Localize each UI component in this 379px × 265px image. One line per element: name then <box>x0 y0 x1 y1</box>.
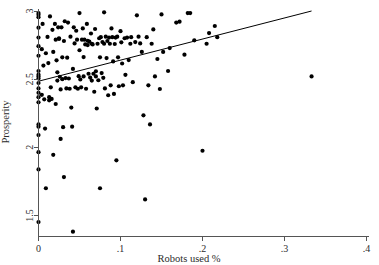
data-point <box>150 42 154 46</box>
data-point <box>118 29 122 33</box>
data-point <box>74 29 78 33</box>
data-point <box>50 28 54 32</box>
data-point <box>62 175 66 179</box>
data-point <box>90 78 94 82</box>
data-point <box>131 80 135 84</box>
data-point <box>161 50 165 54</box>
data-point <box>91 42 95 46</box>
data-point <box>82 74 86 78</box>
data-point <box>70 125 74 129</box>
data-point <box>66 20 70 24</box>
data-point <box>102 42 106 46</box>
y-tick-label: 2.5 <box>24 73 35 86</box>
data-point <box>49 85 53 89</box>
data-point <box>55 70 59 74</box>
data-point <box>93 27 97 31</box>
data-points-layer <box>36 10 313 233</box>
data-point <box>51 50 55 54</box>
data-point <box>153 74 157 78</box>
data-point <box>121 83 125 87</box>
data-point <box>41 22 45 26</box>
data-point <box>61 125 65 129</box>
data-point <box>77 48 81 52</box>
data-point <box>145 35 149 39</box>
data-point <box>143 197 147 201</box>
data-point <box>59 87 63 91</box>
data-point <box>59 137 63 141</box>
data-point <box>44 186 48 190</box>
data-point <box>102 10 106 14</box>
data-point <box>43 126 47 130</box>
y-axis-ticks: 1.522.53 <box>24 9 39 222</box>
data-point <box>109 26 113 30</box>
data-point <box>200 149 204 153</box>
x-tick-label: 0 <box>36 243 41 254</box>
data-point <box>213 24 217 28</box>
data-point <box>72 41 76 45</box>
data-point <box>155 57 159 61</box>
data-point <box>98 186 102 190</box>
data-point <box>101 76 105 80</box>
y-tick-label: 2 <box>24 145 35 150</box>
data-point <box>84 87 88 91</box>
data-point <box>119 40 123 44</box>
y-axis-title: Prosperity <box>0 100 11 144</box>
data-point <box>48 14 52 18</box>
data-point <box>54 58 58 62</box>
data-point <box>207 31 211 35</box>
data-point <box>81 26 85 30</box>
data-point <box>68 87 72 91</box>
x-tick-label: .4 <box>363 243 371 254</box>
data-point <box>151 27 155 31</box>
data-point <box>166 69 170 73</box>
data-point <box>112 92 116 96</box>
data-point <box>69 105 73 109</box>
data-point <box>95 106 99 110</box>
scatter-plot-figure: 1.522.53 0.1.2.3.4 Robots used % Prosper… <box>0 0 379 265</box>
data-point <box>138 41 142 45</box>
data-point <box>71 230 75 234</box>
data-point <box>86 72 90 76</box>
data-point <box>141 113 145 117</box>
data-point <box>129 35 133 39</box>
data-point <box>117 84 121 88</box>
data-point <box>65 56 69 60</box>
data-point <box>51 153 55 157</box>
data-point <box>108 42 112 46</box>
data-point <box>99 35 103 39</box>
data-point <box>159 12 163 16</box>
data-point <box>42 97 46 101</box>
data-point <box>182 53 186 57</box>
data-point <box>205 42 209 46</box>
data-point <box>68 35 72 39</box>
data-point <box>40 47 44 51</box>
data-point <box>40 93 44 97</box>
data-point <box>41 63 45 67</box>
data-point <box>148 122 152 126</box>
data-point <box>133 40 137 44</box>
data-point <box>94 69 98 73</box>
data-point <box>177 20 181 24</box>
data-point <box>89 31 93 35</box>
x-tick-label: .3 <box>281 243 289 254</box>
data-point <box>50 97 54 101</box>
data-point <box>60 55 64 59</box>
data-point <box>77 11 81 15</box>
data-point <box>120 61 124 65</box>
data-point <box>136 35 140 39</box>
data-point <box>67 76 71 80</box>
data-point <box>71 67 75 71</box>
data-point <box>140 50 144 54</box>
data-point <box>72 25 76 29</box>
data-point <box>62 39 66 43</box>
data-point <box>123 73 127 77</box>
data-point <box>85 22 89 26</box>
data-point <box>158 87 162 91</box>
data-point <box>115 35 119 39</box>
data-point <box>128 42 132 46</box>
data-point <box>135 13 139 17</box>
data-point <box>92 90 96 94</box>
data-point <box>106 93 110 97</box>
data-point <box>109 83 113 87</box>
x-tick-label: .1 <box>117 243 125 254</box>
